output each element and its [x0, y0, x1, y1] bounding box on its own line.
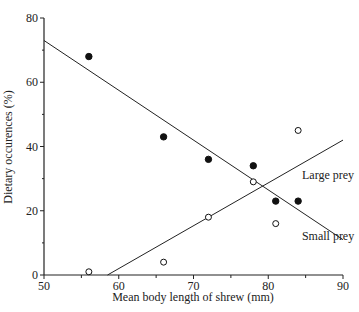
open-point — [250, 179, 256, 185]
y-tick-label: 60 — [26, 75, 38, 89]
open-point — [295, 127, 301, 133]
y-tick-label: 0 — [32, 268, 38, 282]
data-points — [86, 53, 302, 274]
filled-point — [205, 156, 211, 162]
open-point — [205, 214, 211, 220]
axes: 5060708090020406080 — [26, 11, 349, 293]
annotations: Large preySmall prey — [302, 168, 354, 243]
filled-point — [86, 53, 92, 59]
open-point — [161, 259, 167, 265]
filled-point — [160, 134, 166, 140]
series-label: Large prey — [302, 168, 354, 182]
y-tick-label: 80 — [26, 11, 38, 25]
trend-lines — [44, 40, 343, 275]
filled-point — [250, 163, 256, 169]
open-point — [86, 269, 92, 275]
series-label: Small prey — [302, 229, 354, 243]
y-axis-label: Dietary occurences (%) — [1, 90, 15, 203]
filled-point — [295, 198, 301, 204]
y-tick-label: 40 — [26, 140, 38, 154]
scatter-chart: 5060708090020406080 Large preySmall prey… — [0, 0, 359, 312]
x-axis-label: Mean body length of shrew (mm) — [112, 290, 274, 304]
trend-line — [44, 40, 343, 239]
open-point — [273, 221, 279, 227]
x-tick-label: 50 — [38, 279, 50, 293]
filled-point — [273, 198, 279, 204]
trend-line — [108, 140, 343, 275]
x-tick-label: 90 — [337, 279, 349, 293]
y-tick-label: 20 — [26, 204, 38, 218]
